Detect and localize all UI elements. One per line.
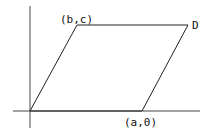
label-a-0: (a,0) <box>124 116 157 129</box>
label-b-c: (b,c) <box>60 13 93 26</box>
label-d: D <box>192 19 199 32</box>
parallelogram <box>30 25 188 111</box>
parallelogram-diagram: (b,c) D (a,0) <box>0 0 212 132</box>
